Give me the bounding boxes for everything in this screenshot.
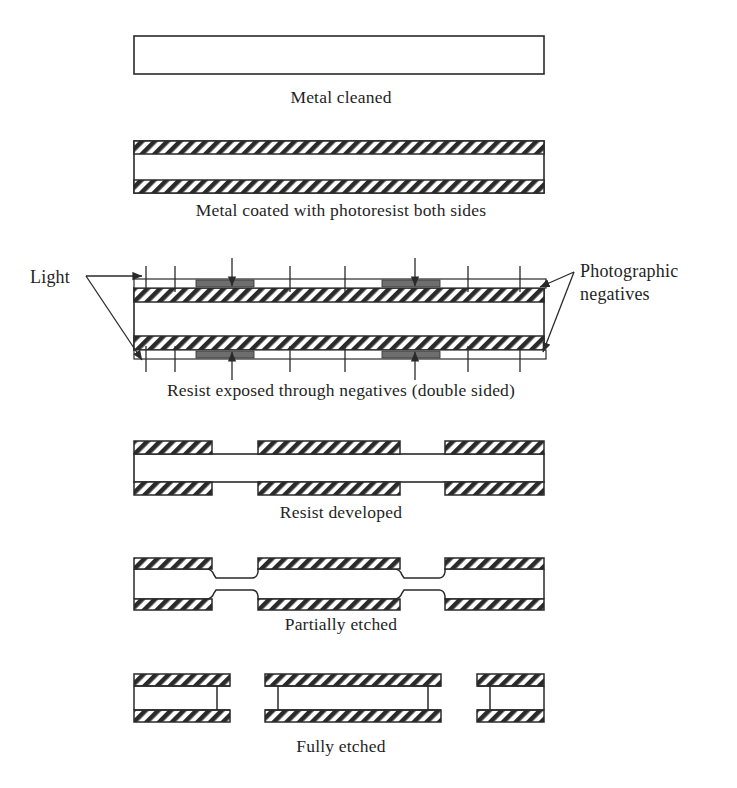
- metal-bottom-profile: [134, 590, 544, 599]
- light-label: Light: [30, 267, 70, 287]
- stage-caption-fully-etched: Fully etched: [296, 736, 385, 756]
- stage-caption-resist-developed: Resist developed: [280, 502, 402, 522]
- resist-segment-top: [445, 441, 544, 454]
- stage-caption-metal-cleaned: Metal cleaned: [290, 87, 391, 107]
- resist-layer-top: [134, 288, 544, 302]
- resist-segment-bottom: [258, 599, 400, 610]
- metal-sheet: [134, 454, 544, 482]
- resist-segment-top: [258, 441, 400, 454]
- stage-resist-exposed: Light Photographic negatives Resist expo…: [30, 258, 678, 400]
- resist-segment-bottom: [445, 599, 544, 610]
- stage-fully-etched: Fully etched: [134, 674, 544, 756]
- negative-opaque-segment: [382, 351, 440, 358]
- resist-segment-top: [258, 558, 400, 569]
- light-annotation: Light: [30, 267, 142, 360]
- stage-partially-etched: Partially etched: [134, 558, 544, 634]
- resist-segment-bottom: [477, 710, 544, 722]
- negative-opaque-segment: [382, 280, 440, 287]
- etched-piece: [265, 674, 441, 722]
- process-diagram-canvas: Metal cleaned Metal coated with photores…: [0, 0, 737, 788]
- stage-resist-developed: Resist developed: [134, 441, 544, 522]
- resist-segment-bottom: [134, 710, 230, 722]
- photographic-negatives-label-line2: negatives: [580, 284, 650, 304]
- resist-segment-top: [265, 674, 441, 686]
- resist-segment-top: [134, 441, 212, 454]
- resist-segment-bottom: [258, 482, 400, 495]
- photographic-negative-bottom: [134, 350, 546, 359]
- metal-top-profile: [134, 569, 544, 578]
- stage-metal-cleaned: Metal cleaned: [134, 36, 544, 107]
- negative-opaque-segment: [196, 280, 254, 287]
- stage-caption-metal-coated: Metal coated with photoresist both sides: [196, 200, 486, 220]
- resist-segment-bottom: [445, 482, 544, 495]
- resist-segment-top: [134, 558, 212, 569]
- etching-process-figure: Metal cleaned Metal coated with photores…: [0, 0, 737, 788]
- negatives-annotation: Photographic negatives: [540, 261, 678, 352]
- resist-segment-bottom: [134, 482, 212, 495]
- resist-segment-top: [445, 558, 544, 569]
- stage-metal-coated: Metal coated with photoresist both sides: [134, 141, 544, 220]
- etched-piece: [477, 674, 544, 722]
- resist-layer-bottom: [134, 180, 544, 193]
- metal-sheet: [134, 36, 544, 74]
- resist-segment-top: [477, 674, 544, 686]
- resist-layer-top: [134, 141, 544, 154]
- stage-caption-resist-exposed: Resist exposed through negatives (double…: [167, 380, 515, 400]
- negative-opaque-segment: [196, 351, 254, 358]
- photographic-negative-top: [134, 279, 546, 288]
- photographic-negatives-label-line1: Photographic: [580, 261, 678, 281]
- resist-segment-bottom: [265, 710, 441, 722]
- resist-segment-bottom: [134, 599, 212, 610]
- resist-segment-top: [134, 674, 230, 686]
- stage-caption-partially-etched: Partially etched: [285, 614, 398, 634]
- etched-piece: [134, 674, 230, 722]
- resist-layer-bottom: [134, 336, 544, 350]
